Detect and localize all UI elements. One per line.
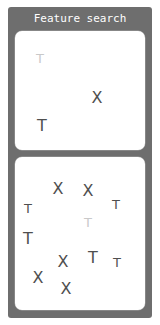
stimulus-t-target[interactable]: T [36, 52, 44, 65]
stimulus-x-distractor[interactable]: X [83, 183, 94, 199]
stimulus-t-distractor[interactable]: T [112, 198, 120, 211]
stimulus-t-target[interactable]: T [84, 216, 92, 229]
stimulus-t-distractor[interactable]: T [24, 202, 32, 215]
stimulus-x-distractor[interactable]: X [33, 270, 44, 286]
search-panel[interactable] [15, 157, 145, 310]
stimulus-x-distractor[interactable]: X [92, 90, 103, 106]
stimulus-t-distractor[interactable]: T [88, 250, 98, 266]
target-panel[interactable] [15, 31, 145, 150]
stimulus-x-distractor[interactable]: X [58, 254, 69, 270]
stimulus-t-distractor[interactable]: T [23, 231, 33, 247]
stimulus-t-distractor[interactable]: T [37, 118, 47, 134]
feature-search-window: Feature search TXTXXTTTTXTTXX [8, 7, 152, 318]
stimulus-t-distractor[interactable]: T [113, 256, 121, 269]
page-title: Feature search [34, 12, 127, 25]
window-title-bar: Feature search [8, 7, 152, 29]
stimulus-x-distractor[interactable]: X [53, 181, 64, 197]
stimulus-x-distractor[interactable]: X [61, 281, 72, 297]
